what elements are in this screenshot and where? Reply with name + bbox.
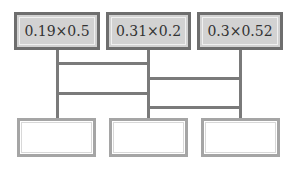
rung-1-2-lower	[56, 92, 150, 95]
answer-box-3-inner-border	[205, 122, 276, 153]
rung-1-2-upper	[56, 62, 150, 65]
answer-box-1-inner-border	[21, 122, 92, 153]
rung-2-3-upper	[147, 77, 242, 80]
top-box-3: 0.3×0.52	[197, 12, 283, 50]
top-box-3-label: 0.3×0.52	[207, 23, 272, 39]
rung-2-3-lower	[147, 106, 242, 109]
top-box-1: 0.19×0.5	[14, 12, 100, 50]
vertical-line-1	[56, 50, 59, 118]
top-box-2: 0.31×0.2	[106, 12, 191, 50]
top-box-2-label: 0.31×0.2	[116, 23, 181, 39]
top-box-1-label: 0.19×0.5	[24, 23, 89, 39]
answer-box-1[interactable]	[17, 118, 96, 157]
answer-box-3[interactable]	[201, 118, 280, 157]
answer-box-2[interactable]	[109, 118, 188, 157]
answer-box-2-inner-border	[113, 122, 184, 153]
